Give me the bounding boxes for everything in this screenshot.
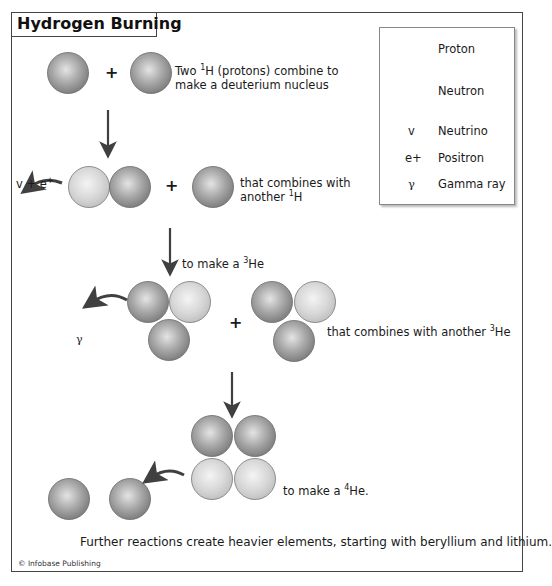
proton [192, 416, 233, 457]
step2-text: that combines with another 1H [240, 176, 350, 204]
step2-line2-pre: another [240, 190, 289, 204]
step2-emitted-text: v + e [16, 177, 47, 191]
legend-gamma-label: Gamma ray [438, 177, 506, 191]
legend-neutrino-label: Neutrino [438, 124, 488, 138]
emission-arrow-2 [92, 295, 127, 302]
neutron [69, 167, 110, 208]
step4-text: to make a 4He. [283, 484, 369, 498]
step1-line2: make a deuterium nucleus [175, 78, 329, 92]
proton [193, 167, 234, 208]
step3-text-post: He [495, 325, 511, 339]
proton [110, 167, 151, 208]
proton [149, 320, 190, 361]
footer-text: Further reactions create heavier element… [80, 535, 552, 549]
proton [235, 416, 276, 457]
plus-sign-1: + [105, 66, 118, 80]
proton [274, 321, 315, 362]
proton [110, 479, 151, 520]
credit: © Infobase Publishing [18, 559, 101, 568]
step2-line1: that combines with [240, 176, 350, 190]
step4-text-post: He. [349, 484, 368, 498]
legend-gamma-symbol: γ [408, 177, 415, 191]
step2-emitted-sup: + [47, 176, 54, 185]
proton [48, 53, 89, 94]
legend-proton-label: Proton [438, 42, 475, 56]
plus-sign-2: + [165, 179, 178, 193]
proton [252, 282, 293, 323]
step3-arrow-label-post: He [248, 257, 264, 271]
legend-positron-label: Positron [438, 151, 484, 165]
step3-arrow-label: to make a 3He [182, 257, 264, 271]
step1-text-post: H (protons) combine to [205, 64, 338, 78]
legend: Proton Neutron v Neutrino e+ Positron γ … [379, 27, 515, 205]
neutron [170, 282, 211, 323]
proton [131, 53, 172, 94]
neutron [192, 459, 233, 500]
step1-text-pre: Two [175, 64, 200, 78]
step2-emitted: v + e+ [16, 177, 54, 191]
legend-positron-symbol: e+ [405, 151, 422, 165]
step4-text-pre: to make a [283, 484, 344, 498]
neutron [295, 282, 336, 323]
legend-neutron-label: Neutron [438, 84, 484, 98]
proton [128, 282, 169, 323]
step3-arrow-label-pre: to make a [182, 257, 243, 271]
neutron [235, 459, 276, 500]
legend-neutrino-symbol: v [408, 124, 415, 138]
step3-text: that combines with another 3He [327, 325, 511, 339]
emission-arrow-3 [152, 471, 184, 477]
step1-text: Two 1H (protons) combine to make a deute… [175, 64, 339, 92]
step2-line2-post: H [294, 190, 303, 204]
gamma-emitted: γ [76, 333, 83, 347]
step3-text-pre: that combines with another [327, 325, 490, 339]
plus-sign-3: + [229, 316, 242, 330]
proton [49, 479, 90, 520]
